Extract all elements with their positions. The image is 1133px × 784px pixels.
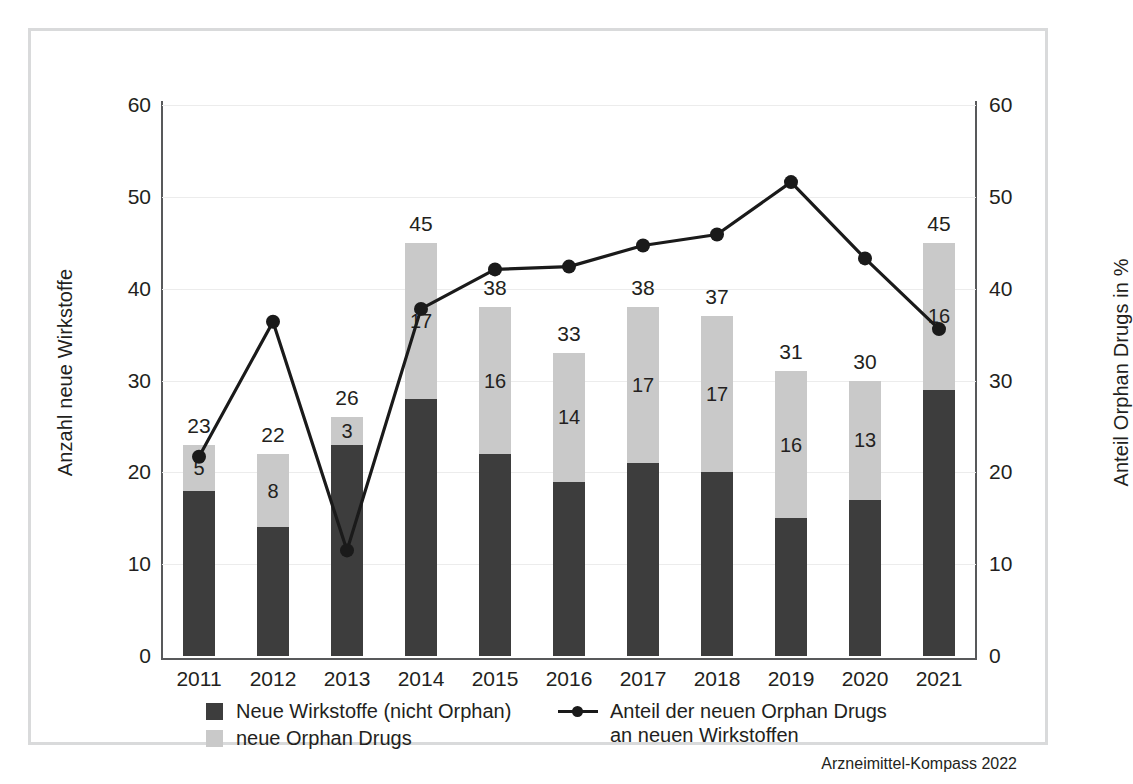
bar-orphan-label-2013: 3: [317, 421, 377, 441]
y-tick-right-20: 20: [989, 461, 1047, 482]
y-tick-right-0: 0: [989, 645, 1047, 666]
bar-segment-non-orphan-2014: [405, 399, 437, 656]
legend-item-share-line: Anteil der neuen Orphan Drugs an neuen W…: [558, 699, 887, 748]
y-axis-right-ticks: 6050403020100: [989, 31, 1049, 784]
bar-segment-non-orphan-2020: [849, 500, 881, 656]
legend-label-non-orphan: Neue Wirkstoffe (nicht Orphan): [236, 699, 511, 723]
bar-orphan-label-2015: 16: [465, 371, 525, 391]
bar-orphan-label-2014: 17: [391, 311, 451, 331]
y-axis-left-title: Anzahl neue Wirkstoffe: [54, 253, 77, 493]
y-tick-left-20: 20: [93, 461, 151, 482]
bar-segment-non-orphan-2021: [923, 390, 955, 656]
bar-total-label-2015: 38: [460, 277, 530, 298]
legend-line-dot-icon: [558, 703, 598, 720]
bar-group-2021: 4516: [923, 105, 955, 656]
bar-segment-non-orphan-2013: [331, 445, 363, 656]
legend-swatch-light-icon: [206, 730, 223, 747]
bar-total-label-2017: 38: [608, 277, 678, 298]
y-axis-right-title: Anteil Orphan Drugs in %: [1110, 223, 1133, 523]
source-note: Arzneimittel-Kompass 2022: [31, 755, 1051, 773]
y-tick-left-40: 40: [93, 278, 151, 299]
legend-column-line: Anteil der neuen Orphan Drugs an neuen W…: [558, 699, 887, 751]
bar-segment-non-orphan-2015: [479, 454, 511, 656]
bar-total-label-2012: 22: [238, 424, 308, 445]
x-tick-2021: 2021: [894, 668, 984, 689]
plot-area: 2352282634517381633143817371731163013451…: [162, 105, 976, 656]
bar-segment-non-orphan-2018: [701, 472, 733, 656]
bar-total-label-2013: 26: [312, 387, 382, 408]
bar-orphan-label-2011: 5: [169, 458, 229, 478]
bar-segment-non-orphan-2017: [627, 463, 659, 656]
bar-orphan-label-2020: 13: [835, 430, 895, 450]
bar-segment-non-orphan-2016: [553, 482, 585, 656]
y-tick-left-30: 30: [93, 370, 151, 391]
y-tick-left-0: 0: [93, 645, 151, 666]
bar-orphan-label-2017: 17: [613, 375, 673, 395]
legend-column-bars: Neue Wirkstoffe (nicht Orphan) neue Orph…: [206, 699, 511, 754]
y-tick-right-40: 40: [989, 278, 1047, 299]
bar-segment-non-orphan-2019: [775, 518, 807, 656]
y-tick-left-60: 60: [93, 94, 151, 115]
bar-total-label-2018: 37: [682, 286, 752, 307]
bar-orphan-label-2019: 16: [761, 435, 821, 455]
legend-label-share-line: Anteil der neuen Orphan Drugs an neuen W…: [610, 699, 887, 748]
bar-orphan-label-2018: 17: [687, 384, 747, 404]
bar-group-2015: 3816: [479, 105, 511, 656]
bar-group-2012: 228: [257, 105, 289, 656]
bar-group-2019: 3116: [775, 105, 807, 656]
y-tick-right-50: 50: [989, 186, 1047, 207]
y-tick-right-60: 60: [989, 94, 1047, 115]
y-tick-right-10: 10: [989, 553, 1047, 574]
legend-item-orphan: neue Orphan Drugs: [206, 726, 511, 750]
bar-group-2016: 3314: [553, 105, 585, 656]
bar-orphan-label-2012: 8: [243, 481, 303, 501]
legend-swatch-dark-icon: [206, 703, 223, 720]
bar-group-2020: 3013: [849, 105, 881, 656]
bar-total-label-2021: 45: [904, 213, 974, 234]
y-tick-right-30: 30: [989, 370, 1047, 391]
bar-total-label-2011: 23: [164, 415, 234, 436]
bar-segment-non-orphan-2011: [183, 491, 215, 656]
bar-total-label-2020: 30: [830, 351, 900, 372]
bar-group-2018: 3717: [701, 105, 733, 656]
bar-group-2011: 235: [183, 105, 215, 656]
bar-total-label-2014: 45: [386, 213, 456, 234]
x-axis-line: [161, 658, 977, 660]
bar-orphan-label-2021: 16: [909, 306, 969, 326]
legend-label-orphan: neue Orphan Drugs: [236, 726, 412, 750]
y-tick-left-50: 50: [93, 186, 151, 207]
bar-group-2013: 263: [331, 105, 363, 656]
bar-group-2017: 3817: [627, 105, 659, 656]
bar-total-label-2016: 33: [534, 323, 604, 344]
bar-total-label-2019: 31: [756, 341, 826, 362]
legend-item-non-orphan: Neue Wirkstoffe (nicht Orphan): [206, 699, 511, 723]
y-axis-left-ticks: 6050403020100: [93, 31, 151, 784]
bar-group-2014: 4517: [405, 105, 437, 656]
bar-orphan-label-2016: 14: [539, 407, 599, 427]
bar-segment-non-orphan-2012: [257, 527, 289, 656]
y-tick-left-10: 10: [93, 553, 151, 574]
chart-frame: Anzahl neue Wirkstoffe Anteil Orphan Dru…: [28, 28, 1048, 745]
